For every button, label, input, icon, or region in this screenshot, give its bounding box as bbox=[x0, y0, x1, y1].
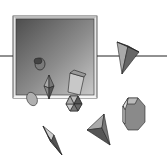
triangular-pyramid-icon bbox=[117, 42, 139, 74]
window-frame bbox=[13, 16, 97, 98]
geometric-solids-illustration bbox=[0, 0, 167, 164]
bipyramid-small-icon bbox=[43, 126, 62, 155]
tetrahedron-icon bbox=[87, 114, 110, 145]
octagonal-prism-icon bbox=[123, 98, 145, 130]
